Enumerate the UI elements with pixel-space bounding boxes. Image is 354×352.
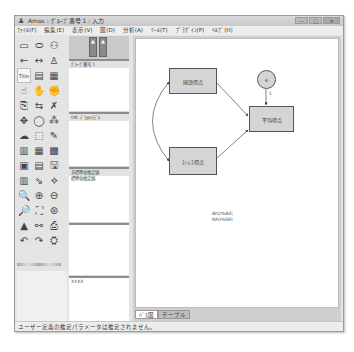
palette-divider [17,263,61,266]
add-unique-variable-icon[interactable]: ♙ [47,53,61,68]
diagram-edges [136,39,340,309]
object-properties-icon[interactable]: ▥ [17,173,31,188]
format-unstandardized[interactable]: 非標準化推定値 [69,169,129,176]
scroll-diagram-icon[interactable]: ⬚ [32,128,46,143]
error-variable-e[interactable]: e [257,70,276,89]
format-standardized[interactable]: 標準化推定値 [69,176,129,181]
deselect-all-objects-icon[interactable]: ✊ [47,83,61,98]
undo-icon[interactable]: ↶ [17,233,31,248]
move-objects-icon[interactable]: ⇆ [32,98,46,113]
path-diagram-canvas[interactable]: 国語得点 ｽﾄﾚｽ得点 平均得点 e 1 AIC/%AIC GFI/%GFI [135,38,339,308]
zoom-page-icon[interactable]: 🔎 [17,203,31,218]
select-all-objects-icon[interactable]: ✋ [32,83,46,98]
draw-latent-indicator-icon[interactable]: ⚇ [47,38,61,53]
calculate-estimates-icon[interactable]: ▩ [47,143,61,158]
draw-observed-variable-icon[interactable]: ▭ [17,38,31,53]
observed-variable-stress[interactable]: ｽﾄﾚｽ得点 [169,147,217,175]
view-text-output-icon[interactable]: ▤ [32,158,46,173]
tab-tables[interactable]: テーブル [158,310,190,319]
select-one-object-icon[interactable]: ☝ [17,83,31,98]
menu-help[interactable]: ﾍﾙﾌﾟ(H) [212,26,232,35]
models-panel: OK: ﾃﾞﾌｫﾙﾄﾓﾃﾞﾙ [69,112,129,166]
menu-plugins[interactable]: ﾌﾟﾗｸﾞｲﾝ(P) [176,26,205,35]
copy-path-diagram-icon[interactable]: ▣ [17,158,31,173]
rotate-indicators-icon[interactable]: ◯ [32,113,46,128]
fit-to-page-icon[interactable]: ⛶ [32,203,46,218]
maximize-button[interactable]: □ [309,17,322,24]
menu-analyze[interactable]: 分析(A) [123,26,143,35]
observed-variable-heikin[interactable]: 平均得点 [249,106,294,132]
view-input-diagram-icon[interactable]: ▲ [89,37,97,57]
select-data-files-icon[interactable]: ▥ [17,143,31,158]
menu-bar: ﾌｧｲﾙ(F) 編集(E) 表示(V) 図(D) 分析(A) ﾂｰﾙ(T) ﾌﾟ… [15,26,343,35]
model-item[interactable]: OK: ﾃﾞﾌｫﾙﾄﾓﾃﾞﾙ [69,114,129,121]
groups-panel: ｸﾞﾙｰﾌﾟ番号 1 [69,59,129,111]
app-logo-icon: ♟ [18,17,26,25]
touch-up-variable-icon[interactable]: ✎ [47,128,61,143]
redo-icon[interactable]: ↷ [32,233,46,248]
menu-diagram[interactable]: 図(D) [100,26,115,35]
tab-path-diagram[interactable]: ﾊﾟｽ図 [135,310,158,319]
group-item[interactable]: ｸﾞﾙｰﾌﾟ番号 1 [69,61,129,68]
draw-path-icon[interactable]: ← [17,53,31,68]
reflect-indicators-icon[interactable]: ⁂ [47,113,61,128]
fit-index-gfi: GFI/%GFI [212,217,233,223]
parameter-formats-panel: 非標準化推定値 標準化推定値 [69,167,129,222]
zoom-out-icon[interactable]: ⊖ [47,188,61,203]
observed-variable-kokugo[interactable]: 国語得点 [169,68,217,94]
window-controls: — □ ✕ [295,17,340,24]
window-title: Amos : ｸﾞﾙｰﾌﾟ番号 1 : 入力 [28,17,104,25]
draw-covariance-icon[interactable]: ↔ [32,53,46,68]
menu-tools[interactable]: ﾂｰﾙ(T) [151,26,168,35]
view-toggle-area: ▲ ▲ [69,36,129,59]
computation-summary-panel [69,223,129,275]
tool-palette: ▭⬭⚇←↔♙Title▤▦☝✋✊⎘⇆✗✥◯⁂☁⬚✎▥▦▩▣▤🖫▥⇘⟡🔍⊕⊖🔎⛶⊛… [17,38,61,268]
title-bar: ♟ Amos : ｸﾞﾙｰﾌﾟ番号 1 : 入力 — □ ✕ [15,16,343,26]
preserve-symmetries-icon[interactable]: ⟡ [47,173,61,188]
amos-window: ♟ Amos : ｸﾞﾙｰﾌﾟ番号 1 : 入力 — □ ✕ ﾌｧｲﾙ(F) 編… [14,15,344,332]
move-parameter-values-icon[interactable]: ☁ [17,128,31,143]
status-bar: ユーザー定義の推定パラメータは推定されません。 [15,321,343,331]
bayesian-estimation-icon[interactable]: ▲ [17,218,31,233]
notes-panel: XXXX [69,276,129,321]
loupe-icon[interactable]: ⊛ [47,203,61,218]
menu-file[interactable]: ﾌｧｲﾙ(F) [17,26,36,35]
draw-unobserved-variable-icon[interactable]: ⬭ [32,38,46,53]
analysis-properties-icon[interactable]: ▦ [32,143,46,158]
multiple-group-analysis-icon[interactable]: ⚯ [32,218,46,233]
menu-view[interactable]: 表示(V) [72,26,92,35]
duplicate-objects-icon[interactable]: ⎘ [17,98,31,113]
view-output-diagram-icon[interactable]: ▲ [99,37,107,57]
specification-search-icon[interactable]: ⛭ [47,233,61,248]
side-panel-column: ▲ ▲ ｸﾞﾙｰﾌﾟ番号 1 OK: ﾃﾞﾌｫﾙﾄﾓﾃﾞﾙ 非標準化推定値 標準… [69,36,129,321]
title-icon[interactable]: Title [17,68,31,83]
close-button[interactable]: ✕ [323,17,340,24]
diagram-area: 国語得点 ｽﾄﾚｽ得点 平均得点 e 1 AIC/%AIC GFI/%GFI ﾊ… [133,36,341,321]
erase-objects-icon[interactable]: ✗ [47,98,61,113]
minimize-button[interactable]: — [295,17,308,24]
error-path-weight: 1 [269,91,272,97]
computation-summary-text [69,225,129,227]
list-variables-in-model-icon[interactable]: ▤ [32,68,46,83]
change-shape-icon[interactable]: ✥ [17,113,31,128]
notes-text: XXXX [69,278,129,285]
view-tabs: ﾊﾟｽ図 テーブル [135,310,190,319]
save-diagram-icon[interactable]: 🖫 [47,158,61,173]
palette-empty-area [17,271,67,321]
menu-edit[interactable]: 編集(E) [44,26,64,35]
print-icon[interactable]: ⎙ [47,218,61,233]
list-variables-in-dataset-icon[interactable]: ▦ [47,68,61,83]
zoom-select-icon[interactable]: 🔍 [17,188,31,203]
drag-properties-icon[interactable]: ⇘ [32,173,46,188]
zoom-in-icon[interactable]: ⊕ [32,188,46,203]
